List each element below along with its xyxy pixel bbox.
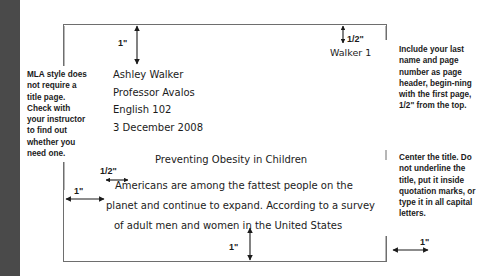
document-heading-block: Ashley Walker Professor Avalos English 1… <box>113 66 203 136</box>
body-line-2: planet and continue to expand. According… <box>106 196 375 216</box>
heading-line-name: Ashley Walker <box>113 66 203 84</box>
measure-label-header-offset: 1/2" <box>347 34 364 44</box>
left-gutter-bar <box>0 0 20 276</box>
body-line-1: Americans are among the fattest people o… <box>106 176 375 196</box>
annotation-title-page: MLA style does not require a title page.… <box>27 69 89 159</box>
measure-label-indent: 1/2" <box>100 166 117 176</box>
measure-label-left-margin: 1" <box>74 186 83 196</box>
annotation-title-format: Center the title. Do not underline the t… <box>399 152 481 220</box>
heading-line-course: English 102 <box>113 101 203 119</box>
mla-first-page-figure: Ashley Walker Professor Avalos English 1… <box>0 0 489 276</box>
measure-label-top-margin: 1" <box>118 38 127 48</box>
body-line-3: of adult men and women in the United Sta… <box>106 216 375 236</box>
annotation-page-header: Include your last name and page number a… <box>399 44 481 112</box>
heading-line-date: 3 December 2008 <box>113 119 203 137</box>
document-body-paragraph: Americans are among the fattest people o… <box>106 176 375 236</box>
page-header-running-head: Walker 1 <box>330 47 371 58</box>
heading-line-prof: Professor Avalos <box>113 84 203 102</box>
document-title: Preventing Obesity in Children <box>155 154 307 165</box>
measure-label-bottom-margin: 1" <box>229 242 238 252</box>
border-notch-right-top <box>383 40 391 150</box>
border-notch-right-bottom <box>383 150 391 236</box>
measure-label-right-margin: 1" <box>420 237 429 247</box>
